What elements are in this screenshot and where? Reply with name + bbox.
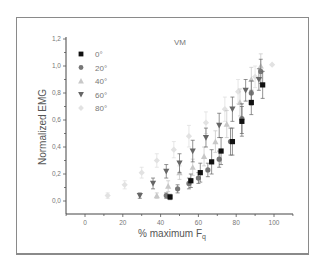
series-1 — [164, 59, 264, 198]
data-point — [167, 194, 172, 199]
legend-item: 0° — [79, 50, 103, 59]
legend-marker-icon — [78, 92, 84, 97]
data-point — [218, 148, 223, 153]
data-point — [154, 157, 160, 163]
legend: 0°20°40°60°80° — [78, 50, 107, 113]
data-point — [203, 120, 209, 126]
plot-area — [105, 54, 276, 200]
data-point — [243, 88, 249, 94]
y-tick-label: 0,0 — [52, 197, 61, 204]
data-point — [201, 153, 207, 159]
legend-label: 60° — [95, 91, 107, 100]
data-point — [229, 107, 235, 113]
data-point — [154, 193, 160, 199]
x-axis-label: % maximum Fq — [138, 228, 206, 241]
x-tick-label: 0 — [83, 219, 87, 226]
x-tick-label: 20 — [119, 219, 127, 226]
data-point — [269, 62, 275, 68]
data-point — [203, 135, 209, 141]
data-point — [186, 133, 192, 139]
data-point — [239, 119, 244, 124]
legend-item: 20° — [79, 64, 108, 73]
x-tick-label: 80 — [233, 219, 241, 226]
y-tick-label: 0,6 — [52, 116, 61, 123]
data-point — [190, 164, 196, 170]
legend-marker-icon — [79, 65, 84, 70]
data-point — [249, 100, 254, 105]
data-point — [224, 121, 230, 127]
legend-label: 80° — [95, 104, 107, 113]
legend-marker-icon — [79, 52, 84, 57]
x-tick-label: 40 — [157, 219, 165, 226]
y-tick-label: 1,2 — [52, 35, 61, 42]
legend-item: 40° — [78, 77, 107, 86]
data-point — [171, 147, 177, 153]
data-point — [205, 167, 210, 172]
data-point — [216, 123, 222, 129]
data-point — [176, 161, 182, 167]
data-point — [230, 139, 235, 144]
chart-title: VM — [174, 38, 186, 47]
y-tick-label: 0,8 — [52, 89, 61, 96]
data-point — [190, 148, 196, 154]
legend-label: 0° — [95, 50, 103, 59]
data-point — [188, 178, 193, 183]
legend-item: 60° — [78, 91, 107, 100]
legend-marker-icon — [78, 78, 84, 83]
x-tick-label: 100 — [269, 219, 280, 226]
y-tick-label: 0,2 — [52, 170, 61, 177]
scatter-chart: 0,00,20,40,60,81,01,2020406080100 0°20°4… — [0, 0, 326, 271]
data-point — [198, 170, 203, 175]
legend-item: 80° — [78, 104, 107, 113]
y-tick-label: 0,4 — [52, 143, 61, 150]
legend-marker-icon — [78, 105, 84, 111]
x-tick-label: 60 — [195, 219, 203, 226]
y-tick-label: 1,0 — [52, 62, 61, 69]
legend-label: 40° — [95, 77, 107, 86]
data-point — [175, 186, 180, 191]
data-point — [212, 139, 218, 145]
data-point — [122, 182, 128, 188]
legend-label: 20° — [95, 64, 107, 73]
series-0 — [167, 71, 265, 199]
data-point — [150, 181, 156, 187]
data-point — [137, 193, 143, 199]
y-axis-label: Normalized EMG — [37, 89, 48, 165]
data-point — [105, 193, 111, 199]
data-point — [139, 170, 145, 176]
data-point — [165, 183, 171, 189]
data-point — [209, 159, 214, 164]
data-point — [260, 82, 265, 87]
data-point — [163, 169, 169, 175]
